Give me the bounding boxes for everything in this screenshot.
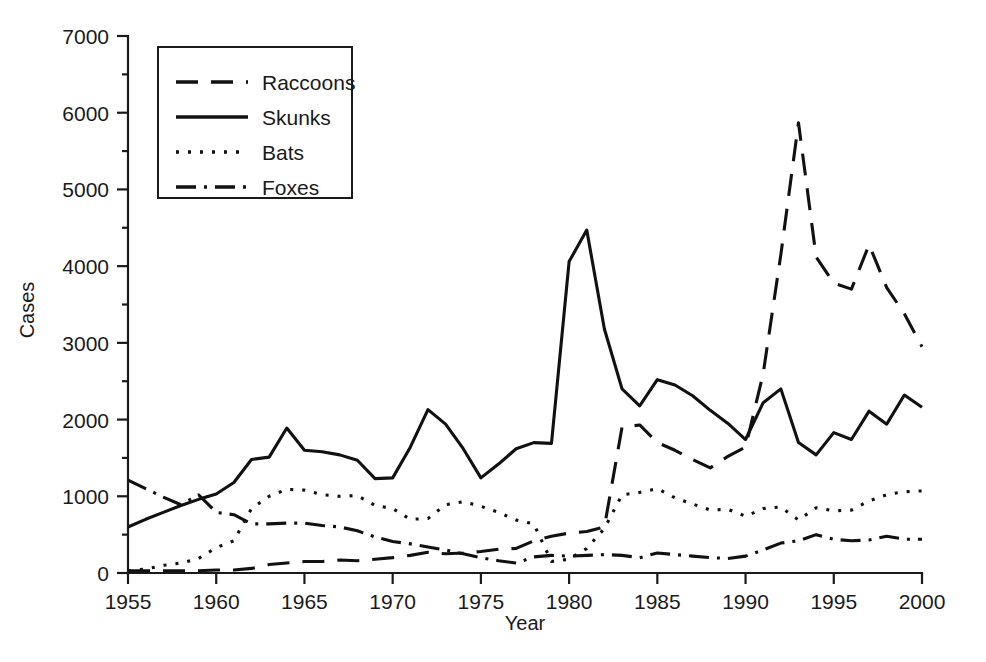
y-tick-label: 0 <box>97 562 109 585</box>
x-tick-label: 1990 <box>722 590 769 613</box>
y-tick-label: 7000 <box>62 25 109 48</box>
y-tick-label: 3000 <box>62 332 109 355</box>
y-tick-label: 2000 <box>62 409 109 432</box>
x-tick-label: 1960 <box>193 590 240 613</box>
legend: RaccoonsSkunksBatsFoxes <box>158 47 355 199</box>
series-line-skunks <box>128 230 922 527</box>
y-axis-ticks <box>117 36 128 573</box>
y-axis-tick-labels: 01000200030004000500060007000 <box>62 25 109 585</box>
x-tick-label: 1975 <box>458 590 505 613</box>
y-tick-label: 1000 <box>62 485 109 508</box>
x-tick-label: 1980 <box>546 590 593 613</box>
x-axis-tick-labels: 1955196019651970197519801985199019952000 <box>105 590 946 613</box>
series-line-foxes <box>128 480 922 563</box>
x-tick-label: 1985 <box>634 590 681 613</box>
y-axis-title: Cases <box>16 282 38 339</box>
x-tick-label: 2000 <box>899 590 946 613</box>
x-tick-label: 1970 <box>369 590 416 613</box>
x-tick-label: 1955 <box>105 590 152 613</box>
legend-label-skunks: Skunks <box>262 106 331 129</box>
x-tick-label: 1965 <box>281 590 328 613</box>
x-axis-title: Year <box>505 612 546 634</box>
x-axis-ticks <box>128 573 922 584</box>
legend-label-foxes: Foxes <box>262 176 319 199</box>
y-tick-label: 6000 <box>62 102 109 125</box>
chart-svg: 01000200030004000500060007000 1955196019… <box>0 0 986 662</box>
rabies-cases-line-chart: 01000200030004000500060007000 1955196019… <box>0 0 986 662</box>
y-tick-label: 5000 <box>62 178 109 201</box>
x-tick-label: 1995 <box>810 590 857 613</box>
y-tick-label: 4000 <box>62 255 109 278</box>
legend-label-bats: Bats <box>262 141 304 164</box>
legend-label-raccoons: Raccoons <box>262 71 355 94</box>
